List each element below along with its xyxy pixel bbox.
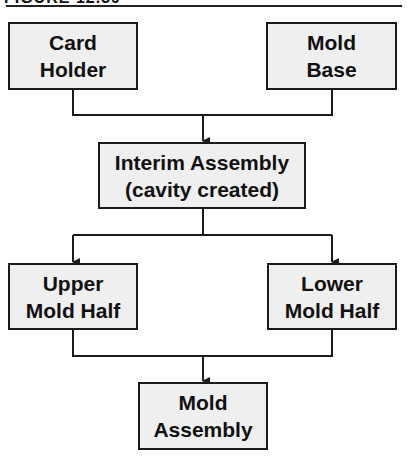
node-label-line1: Upper	[43, 270, 104, 297]
node-label-line1: Mold	[307, 29, 356, 56]
node-label-line1: Card	[49, 29, 97, 56]
node-card-holder: Card Holder	[8, 22, 138, 90]
node-label-line1: Mold	[179, 389, 228, 416]
node-label-line2: Mold Half	[26, 297, 121, 324]
node-interim-assembly: Interim Assembly (cavity created)	[98, 142, 306, 209]
node-label-line2: Assembly	[153, 416, 252, 443]
node-mold-base: Mold Base	[266, 22, 397, 90]
node-label-line2: (cavity created)	[125, 176, 279, 203]
node-label-line1: Interim Assembly	[115, 149, 289, 176]
node-mold-assembly: Mold Assembly	[138, 382, 268, 450]
node-label-line1: Lower	[301, 270, 363, 297]
node-upper-mold-half: Upper Mold Half	[8, 263, 138, 330]
node-label-line2: Base	[306, 56, 356, 83]
node-label-line2: Mold Half	[285, 297, 380, 324]
node-lower-mold-half: Lower Mold Half	[267, 263, 397, 330]
node-label-line2: Holder	[40, 56, 107, 83]
